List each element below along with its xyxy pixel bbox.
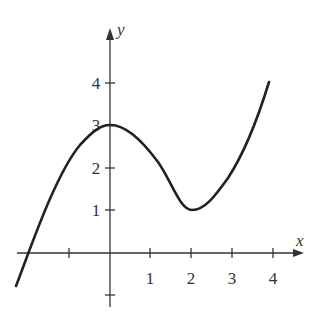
y-axis-label: y [115,20,125,39]
y-axis-arrow-icon [106,28,114,40]
y-tick-label-4: 4 [92,74,101,93]
function-graph: 1 2 3 4 1 2 3 4 x y [0,0,319,315]
x-tick-label-3: 3 [228,269,237,288]
x-axis-arrow-icon [293,249,304,257]
x-tick-label-2: 2 [187,269,196,288]
x-tick-label-4: 4 [269,269,278,288]
x-axis-label: x [295,231,304,250]
y-tick-label-2: 2 [92,159,101,178]
x-tick-label-1: 1 [146,269,155,288]
y-tick-label-1: 1 [92,201,101,220]
function-curve [16,82,269,286]
